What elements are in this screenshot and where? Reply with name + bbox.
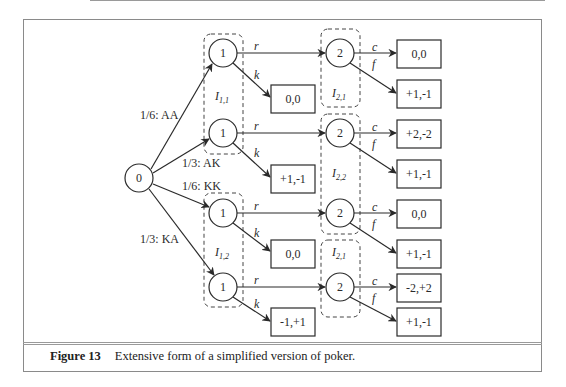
payoff-check-1: 0,0 [286,92,301,106]
figure-caption: Figure 13Extensive form of a simplified … [50,349,355,364]
player2-node-3-label: 2 [337,206,343,220]
action-label-call-2: c [372,120,378,134]
caption-separator [23,342,542,345]
action-label-fold-1: f [372,57,377,71]
action-label-check-2: k [254,146,260,160]
payoff-fold-2: +1,-1 [406,167,432,181]
action-label-raise-1: r [254,39,259,53]
player2-node-4-label: 2 [337,280,343,294]
payoff-fold-3: +1,-1 [406,247,432,261]
action-label-fold-3: f [372,217,377,231]
info-set-label-p2-second: I2,2 [331,166,346,182]
payoff-fold-1: +1,-1 [406,87,432,101]
game-tree-diagram: 0 1 1 1 1 2 2 2 2 1/6: AA 1/3: AK 1/6: K… [0,0,566,387]
payoff-check-3: 0,0 [286,247,301,261]
action-label-call-4: c [372,274,378,288]
payoff-call-4: -2,+2 [406,281,432,295]
edge-check-1 [233,63,270,97]
player1-node-2-label: 1 [220,126,226,140]
info-set-label-p1-bottom: I1,2 [214,245,229,261]
root-chance-node: 0 [125,164,153,192]
player2-node-2-label: 2 [337,126,343,140]
edge-check-4 [233,297,270,321]
chance-label-ak: 1/3: AK [182,156,221,170]
edge-check-3 [233,223,270,251]
player1-node-3-label: 1 [220,206,226,220]
action-label-call-3: c [372,200,378,214]
action-label-check-4: k [254,297,260,311]
action-label-raise-4: r [254,273,259,287]
payoff-check-2: +1,-1 [280,172,306,186]
info-set-label-p2-third: I2,1 [331,245,346,261]
edge-check-2 [233,143,270,177]
figure-number: Figure 13 [50,349,101,363]
action-label-check-3: k [254,226,260,240]
action-label-call-1: c [372,40,378,54]
figure-caption-text: Extensive form of a simplified version o… [115,349,355,363]
payoff-call-1: 0,0 [412,47,427,61]
root-node-label: 0 [136,171,142,185]
action-label-raise-3: r [254,199,259,213]
payoff-call-2: +2,-2 [406,127,432,141]
info-set-label-p2-first: I2,1 [331,86,346,102]
player1-node-4-label: 1 [220,280,226,294]
chance-label-ka: 1/3: KA [140,232,179,246]
info-set-label-p1-top: I1,1 [214,89,229,105]
action-label-check-1: k [254,68,260,82]
action-label-raise-2: r [254,119,259,133]
player1-node-1-label: 1 [220,46,226,60]
payoff-check-4: -1,+1 [280,315,306,329]
chance-label-kk: 1/6: KK [182,179,221,193]
payoff-call-3: 0,0 [412,207,427,221]
action-label-fold-2: f [372,137,377,151]
action-label-fold-4: f [372,291,377,305]
player2-node-1-label: 2 [337,46,343,60]
chance-label-aa: 1/6: AA [140,108,179,122]
payoff-fold-4: +1,-1 [406,315,432,329]
